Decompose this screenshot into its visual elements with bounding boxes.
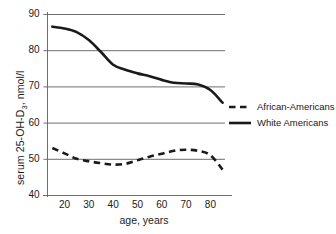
y-axis-title-main: serum 25-OH-D <box>14 110 26 185</box>
legend-item-white-americans: White Americans <box>229 117 328 128</box>
x-tick-label-30: 30 <box>78 200 100 210</box>
legend-label-white-americans: White Americans <box>257 117 328 128</box>
y-tick-label-80: 80 <box>18 45 40 55</box>
x-tick-label-50: 50 <box>126 200 148 210</box>
axis-tickmarks <box>44 15 48 196</box>
x-tick-label-70: 70 <box>175 200 197 210</box>
y-axis-title-units: , nmol/l <box>14 71 26 106</box>
y-axis-title-subscript: 3 <box>20 105 29 109</box>
legend-swatch-solid <box>229 118 251 128</box>
legend-swatch-dashed <box>229 102 251 112</box>
x-axis-title: age, years <box>0 214 312 226</box>
gridlines <box>48 15 226 160</box>
x-tick-label-80: 80 <box>199 200 221 210</box>
x-tick-label-20: 20 <box>54 200 76 210</box>
y-tick-label-40: 40 <box>18 190 40 200</box>
y-axis-title: serum 25-OH-D3, nmol/l <box>14 71 29 185</box>
x-tick-label-40: 40 <box>102 200 124 210</box>
series-line-white-americans <box>52 27 222 103</box>
x-tick-label-60: 60 <box>151 200 173 210</box>
legend-label-african-americans: African-Americans <box>257 101 335 112</box>
y-tick-label-90: 90 <box>18 9 40 19</box>
chart-figure: 405060708090 20304050607080 serum 25-OH-… <box>0 0 336 234</box>
legend-item-african-americans: African-Americans <box>229 101 335 112</box>
